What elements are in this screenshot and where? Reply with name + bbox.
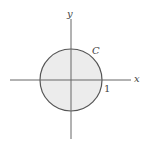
x-axis-label: x bbox=[134, 73, 140, 84]
circle-label: C bbox=[92, 45, 100, 56]
y-axis-label: y bbox=[66, 8, 73, 19]
radius-label: 1 bbox=[104, 83, 110, 94]
unit-circle-diagram: y x C 1 bbox=[0, 0, 146, 149]
